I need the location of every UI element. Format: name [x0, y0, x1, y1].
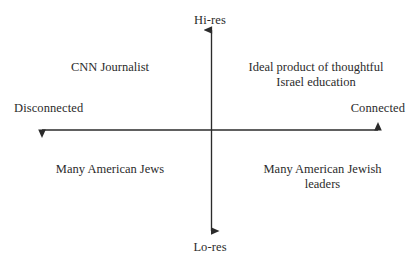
quadrant-label-bottom-left: Many American Jews: [20, 162, 200, 177]
axis-label-disconnected: Disconnected: [14, 101, 83, 115]
axis-label-lo-res: Lo-res: [0, 240, 420, 254]
quadrant-label-bottom-right: Many American Jewish leaders: [240, 162, 405, 191]
quadrant-bottom-left-line1: Many American Jews: [56, 162, 164, 176]
quadrant-top-right-line2: Israel education: [222, 75, 410, 90]
axis-label-connected: Connected: [351, 101, 405, 115]
quadrant-top-left-line1: CNN Journalist: [71, 60, 149, 74]
quadrant-label-top-left: CNN Journalist: [20, 60, 200, 75]
quadrant-bottom-right-line1: Many American Jewish: [263, 162, 381, 176]
quadrant-label-top-right: Ideal product of thoughtful Israel educa…: [222, 60, 410, 89]
quadrant-bottom-right-line2: leaders: [240, 177, 405, 192]
axes-group: [0, 0, 420, 271]
diagram-canvas: Hi-res Lo-res Disconnected Connected CNN…: [0, 0, 420, 271]
axis-label-hi-res: Hi-res: [0, 13, 420, 27]
quadrant-top-right-line1: Ideal product of thoughtful: [248, 60, 383, 74]
